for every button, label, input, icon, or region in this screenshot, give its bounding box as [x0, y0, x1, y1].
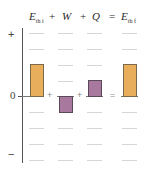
gridline: [29, 49, 44, 50]
equation-op-plus-2: +: [80, 10, 86, 22]
axis-minus-label: −: [8, 148, 14, 160]
eth-f-subscript: th f: [128, 18, 136, 24]
equation-term-heat: Q: [92, 10, 100, 22]
gridline: [29, 128, 44, 129]
bar-op-plus-2: +: [77, 90, 82, 100]
gridline: [58, 49, 73, 50]
eth-f-symbol: E: [121, 10, 128, 22]
bar-heat: [88, 80, 102, 97]
equation-term-eth-final: Eth f: [121, 10, 136, 24]
gridline: [122, 144, 137, 145]
gridline: [29, 160, 44, 161]
gridline: [58, 33, 73, 34]
gridline: [87, 144, 102, 145]
gridline: [122, 112, 137, 113]
gridline: [58, 128, 73, 129]
gridline: [87, 33, 102, 34]
axis-zero-label: 0: [10, 89, 16, 101]
gridline: [87, 128, 102, 129]
bar-eth-final: [123, 64, 137, 97]
bar-work: [59, 96, 73, 113]
gridline: [58, 160, 73, 161]
eth-i-subscript: th i: [36, 18, 44, 24]
gridline: [29, 33, 44, 34]
gridline: [87, 65, 102, 66]
gridline: [87, 49, 102, 50]
gridline: [58, 81, 73, 82]
equation-op-plus-1: +: [49, 10, 55, 22]
gridline: [87, 160, 102, 161]
gridline: [58, 65, 73, 66]
gridline: [87, 112, 102, 113]
eth-i-symbol: E: [29, 10, 36, 22]
gridline: [29, 144, 44, 145]
bar-op-plus-1: +: [47, 90, 52, 100]
gridline: [122, 49, 137, 50]
equation-op-equals: =: [109, 10, 115, 22]
gridline: [58, 144, 73, 145]
gridline: [122, 160, 137, 161]
equation-term-work: W: [62, 10, 71, 22]
bar-eth-initial: [30, 64, 44, 97]
gridline: [29, 112, 44, 113]
gridline: [122, 128, 137, 129]
bar-op-equals: =: [110, 90, 115, 100]
equation-term-eth-initial: Eth i: [29, 10, 44, 24]
axis-plus-label: +: [8, 28, 14, 40]
gridline: [122, 33, 137, 34]
